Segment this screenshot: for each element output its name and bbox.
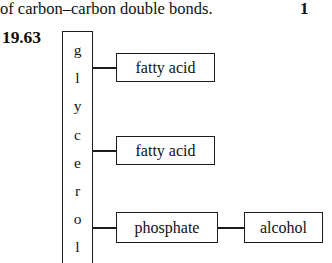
glycerol-letter-6: r bbox=[63, 177, 92, 205]
alcohol-box: alcohol bbox=[244, 212, 323, 243]
phosphate-box: phosphate bbox=[116, 212, 218, 243]
connector-phosphate-to-alcohol bbox=[217, 227, 245, 229]
fatty-acid-box-1: fatty acid bbox=[116, 53, 215, 82]
connector-glycerol-to-phosphate bbox=[93, 227, 117, 229]
glycerol-letter-7: o bbox=[63, 205, 92, 233]
connector-glycerol-to-fatty-acid-2 bbox=[93, 150, 117, 152]
glycerol-backbone-box: g l y c e r o l bbox=[62, 31, 93, 263]
glycerol-letter-2: l bbox=[63, 64, 92, 92]
glycerol-letter-4: c bbox=[63, 121, 92, 149]
glycerol-letter-1: g bbox=[63, 36, 92, 64]
glycerol-letter-8: l bbox=[63, 233, 92, 261]
connector-glycerol-to-fatty-acid-1 bbox=[93, 67, 117, 69]
glycerol-letter-5: e bbox=[63, 149, 92, 177]
glycerol-vertical-label: g l y c e r o l bbox=[63, 36, 92, 262]
fatty-acid-box-2: fatty acid bbox=[116, 136, 215, 165]
glycerol-letter-3: y bbox=[63, 92, 92, 120]
